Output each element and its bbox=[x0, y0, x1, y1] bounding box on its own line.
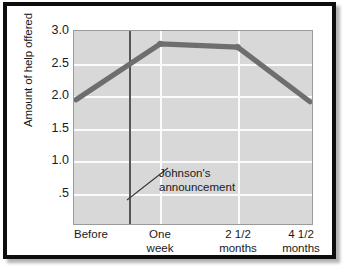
y-tick-label: 3.0 bbox=[29, 23, 69, 37]
x-tick-line-2: months bbox=[219, 242, 257, 256]
y-tick-label: 1.5 bbox=[29, 121, 69, 135]
annotation-line-1: Johnson's bbox=[159, 166, 235, 180]
x-tick-line-1: 2 1/2 bbox=[219, 228, 257, 242]
annotation-label: Johnson's announcement bbox=[159, 166, 235, 194]
y-axis-tick-labels: 3.0 2.5 2.0 1.5 1.0 .5 bbox=[29, 30, 69, 225]
y-tick-label: .5 bbox=[29, 186, 69, 200]
x-tick-line-2: months bbox=[282, 242, 320, 256]
data-point-marker bbox=[235, 44, 241, 50]
y-tick-label: 2.0 bbox=[29, 88, 69, 102]
x-tick-label-four-half-months: 4 1/2 months bbox=[282, 228, 320, 255]
data-series-line bbox=[74, 31, 312, 224]
y-tick-label: 1.0 bbox=[29, 153, 69, 167]
plot-area bbox=[73, 30, 313, 225]
x-tick-label-one-week: One week bbox=[147, 228, 174, 255]
x-tick-label-before: Before bbox=[74, 228, 108, 242]
x-tick-line-1: Before bbox=[74, 228, 108, 242]
x-tick-line-2: week bbox=[147, 242, 174, 256]
vertical-gridline bbox=[312, 31, 313, 224]
x-tick-line-1: 4 1/2 bbox=[282, 228, 320, 242]
x-axis-tick-labels: Before One week 2 1/2 months 4 1/2 month… bbox=[73, 228, 313, 262]
annotation-line-2: announcement bbox=[159, 180, 235, 194]
x-tick-line-1: One bbox=[147, 228, 174, 242]
data-point-marker bbox=[157, 41, 163, 47]
x-tick-label-two-half-months: 2 1/2 months bbox=[219, 228, 257, 255]
y-tick-label: 2.5 bbox=[29, 56, 69, 70]
figure-frame: Amount of help offered 3.0 2.5 2.0 1.5 1… bbox=[3, 2, 336, 259]
